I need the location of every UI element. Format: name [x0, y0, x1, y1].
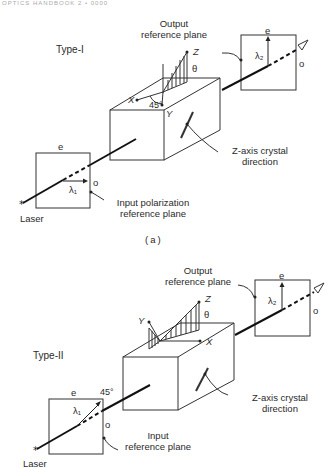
output-o-label: o: [313, 305, 318, 316]
type-ii-label: Type-II: [33, 350, 64, 361]
output-e-label: e: [279, 270, 284, 281]
axis-y-label: Y: [138, 315, 144, 326]
input-reference-plane-label: Input reference plane: [118, 430, 198, 452]
axis-x-label: X: [206, 336, 212, 347]
angle-45-label: 45°: [100, 387, 114, 398]
axis-z-label: Z: [205, 293, 211, 304]
input-e-label: e: [71, 387, 76, 398]
lambda2-label: λ₂: [268, 295, 276, 306]
input-o-label: o: [105, 419, 110, 430]
svg-text:*: *: [33, 445, 38, 456]
output-reference-plane-label: Output reference plane: [160, 265, 236, 287]
theta-label: θ: [204, 309, 209, 320]
crystal-front-face: [123, 357, 178, 410]
laser-label: Laser: [23, 458, 47, 468]
lambda1-label: λ₁: [73, 405, 81, 416]
z-axis-crystal-direction-label: Z-axis crystal direction: [240, 392, 320, 414]
